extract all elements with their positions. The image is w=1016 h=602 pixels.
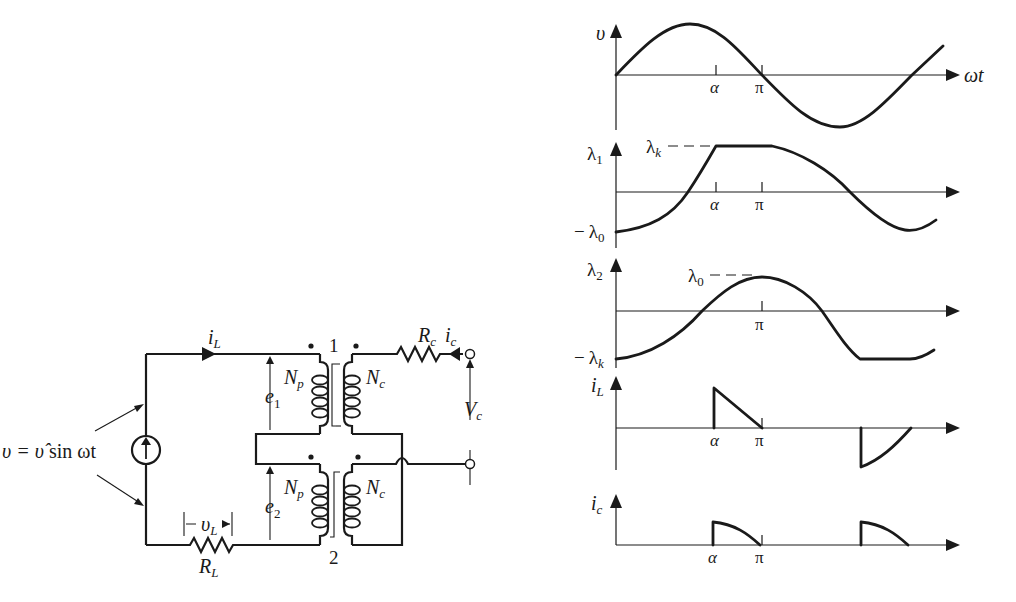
pi-tick-label: π (755, 548, 764, 567)
graph-load-current: iL α π (591, 374, 960, 470)
alpha-tick-label: α (710, 78, 720, 97)
control-resistor-label: Rc (417, 324, 436, 349)
pointer-line-top (95, 406, 140, 431)
e2-arrow (266, 466, 274, 474)
neg-lambda-k-label: −λk (574, 347, 604, 371)
core1-bar-left (332, 364, 340, 426)
load-voltage-label: υL (201, 513, 217, 538)
pi-tick-label: π (755, 78, 764, 97)
source-label: υ = υ̂ sin ωt (2, 440, 96, 462)
pointer-arrow-bottom (134, 498, 144, 506)
vc-arrow-head (466, 359, 474, 368)
lambda-k-label: λk (646, 136, 661, 160)
polarity-dot (355, 454, 360, 459)
pi-tick-label: π (755, 431, 764, 450)
lambda2-axis-label: λ2 (587, 259, 603, 283)
core2-control-coil-icon (344, 486, 360, 528)
wt-axis-arrow (946, 69, 960, 81)
ic-pulse-2 (861, 522, 908, 545)
polarity-dot (308, 343, 313, 348)
emf2-label: e2 (265, 495, 280, 521)
polarity-dot (308, 454, 313, 459)
lambda1-curve (616, 146, 936, 232)
core1-primary-coil-icon (312, 376, 328, 418)
pi-tick-label: π (755, 195, 764, 214)
il-axis-arrow (610, 376, 622, 390)
control-return-wire (352, 458, 466, 464)
core2-primary-coil-icon (312, 486, 328, 528)
il-time-axis-arrow (946, 422, 960, 434)
waveform-graphs: υ ωt α π λ1 λk −λ0 α π (574, 22, 984, 567)
core2-primary-turns-label: Np (283, 476, 304, 501)
core1-control-coil-icon (344, 376, 360, 418)
e1-arrow (266, 356, 274, 364)
circuit-diagram: υ = υ̂ sin ωt iL υL RL Rc ic Vc e1 e2 Np… (2, 324, 482, 580)
neg-lambda-0-label: −λ0 (574, 221, 604, 245)
v-axis-label: υ (596, 22, 605, 44)
lambda2-time-axis-arrow (946, 305, 960, 317)
control-resistor (352, 347, 463, 361)
ic-pulse-1 (713, 522, 760, 545)
il-positive-pulse (714, 388, 762, 428)
lambda2-axis-arrow (610, 258, 622, 272)
il-axis-label: iL (591, 374, 604, 399)
graph-source-voltage: υ ωt α π (596, 22, 984, 130)
load-resistor-label: RL (198, 555, 218, 580)
il-negative-pulse (861, 428, 911, 467)
core2-control-turns-label: Nc (365, 476, 385, 501)
control-current-arrow (449, 347, 460, 361)
control-current-label: ic (445, 324, 457, 349)
lambda1-ticks (716, 182, 762, 192)
vl-arrow (222, 520, 230, 528)
core2-bar (330, 472, 340, 537)
load-resistor (146, 538, 320, 552)
lambda1-time-axis-arrow (946, 186, 960, 198)
load-current-label: iL (208, 326, 221, 351)
alpha-tick-label: α (710, 195, 720, 214)
lambda1-axis-arrow (610, 142, 622, 156)
pointer-arrow-top (134, 404, 144, 412)
ic-axis-arrow (610, 494, 622, 508)
emf1-label: e1 (265, 385, 280, 411)
ic-axis-label: ic (591, 492, 603, 517)
core1-primary-bottom-lead (320, 370, 328, 434)
control-terminal-top (466, 350, 475, 359)
graph-control-current: ic α π (591, 492, 960, 567)
polarity-dot (353, 343, 358, 348)
graph-flux-core1: λ1 λk −λ0 α π (574, 136, 960, 248)
core2-label: 2 (329, 547, 339, 568)
v-axis-arrow (610, 24, 622, 38)
pi-tick-label: π (755, 315, 764, 334)
lambda1-axis-label: λ1 (587, 143, 603, 167)
core1-control-turns-label: Nc (365, 366, 385, 391)
core1-primary-turns-label: Np (283, 366, 304, 391)
control-terminal-bottom (466, 460, 475, 469)
alpha-tick-label: α (708, 548, 718, 567)
core1-label: 1 (329, 335, 339, 356)
wt-axis-label: ωt (964, 64, 984, 86)
pointer-line-bottom (97, 475, 140, 503)
alpha-tick-label: α (710, 431, 720, 450)
core1-primary-top-lead (320, 354, 328, 370)
control-voltage-label: Vc (464, 398, 482, 423)
magnetic-amplifier-figure: υ = υ̂ sin ωt iL υL RL Rc ic Vc e1 e2 Np… (0, 0, 1016, 602)
vl-bracket-left (184, 512, 196, 536)
lambda-0-label: λ0 (688, 265, 704, 289)
ic-time-axis-arrow (946, 539, 960, 551)
graph-flux-core2: λ2 λ0 −λk π (574, 258, 960, 371)
lambda2-curve (616, 277, 934, 359)
